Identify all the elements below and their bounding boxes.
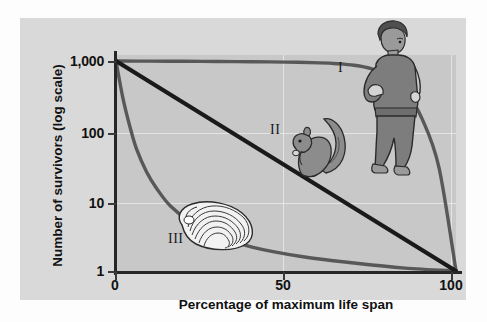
y-tick-label-1000: 1,000 [36,53,104,69]
y-tick-label-1: 1 [36,263,104,279]
y-axis-line [114,51,117,275]
curve-label-iii: III [168,231,184,247]
x-axis-line [114,271,462,274]
x-tick-label-0: 0 [95,277,135,293]
x-tick-label-50: 50 [263,277,303,293]
curve-label-i: I [338,60,343,76]
y-axis-title: Number of survivors (log scale) [50,41,65,291]
y-tick-mark-1000 [108,61,116,63]
figure-panel: 1,000 100 10 1 0 50 100 Number of surviv… [20,18,466,300]
y-tick-mark-100 [108,133,116,135]
survivorship-curve-figure: 1,000 100 10 1 0 50 100 Number of surviv… [0,0,487,322]
y-tick-mark-10 [108,203,116,205]
x-axis-title: Percentage of maximum life span [116,297,456,312]
curve-label-ii: II [270,122,280,138]
x-tick-label-100: 100 [431,277,471,293]
y-tick-label-100: 100 [36,125,104,141]
y-tick-label-10: 10 [36,195,104,211]
